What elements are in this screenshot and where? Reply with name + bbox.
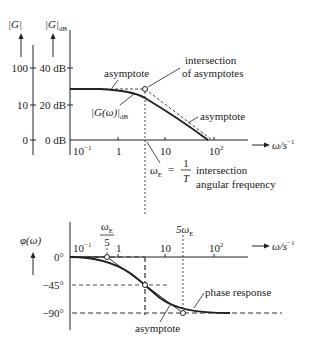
label-freq-1: intersection	[196, 164, 248, 176]
label-intersection-1: intersection	[185, 54, 237, 66]
phase-tick-0: 0°	[54, 251, 64, 263]
phase-tick-90: −90°	[42, 307, 64, 319]
label-omega-e5-num: ωE	[101, 220, 113, 235]
mag-x-tick-100: 102	[209, 144, 224, 157]
phase-axis-arrow-icon	[31, 252, 36, 275]
omega-e-over-5-marker	[105, 255, 110, 260]
db-tick-20: 20 dB	[39, 99, 66, 111]
abs-tick-0: 0	[23, 134, 29, 146]
label-intersection-2: of asymptotes	[182, 67, 243, 79]
phase-x-tick-0.1: 10−1	[73, 241, 92, 254]
phase-x-tick-100: 102	[209, 241, 224, 254]
corner-phase-marker	[143, 283, 148, 288]
abs-axis-arrow-icon	[19, 33, 24, 57]
phase-x-axis-arrow-icon	[252, 244, 270, 249]
db-tick-40: 40 dB	[39, 62, 66, 74]
db-tick-0: 0 dB	[45, 134, 66, 146]
abs-axis-label: |G|	[8, 18, 22, 30]
label-five-omega-e: 5ωE	[176, 223, 194, 238]
label-freq-2: angular frequency	[196, 178, 276, 190]
frac-denominator: T	[183, 172, 190, 184]
label-omega-e: ωE	[150, 164, 162, 179]
phase-x-tick-10: 10	[160, 242, 172, 254]
abs-tick-10: 10	[17, 99, 29, 111]
asymptote-intersection-marker	[143, 87, 148, 92]
label-equals: =	[168, 163, 174, 175]
abs-tick-100: 100	[12, 62, 29, 74]
label-magnitude-curve: |G(ω)|dB	[91, 106, 129, 121]
phase-tick-45: −45°	[42, 279, 64, 291]
label-omega-e5-den: 5	[104, 236, 110, 248]
label-asymptote-low: asymptote	[104, 67, 149, 79]
mag-x-tick-10: 10	[160, 145, 172, 157]
db-axis-label: |G|dB	[45, 18, 68, 33]
db-axis-arrow-icon	[51, 33, 56, 57]
five-omega-e-marker	[181, 311, 186, 316]
mag-x-axis-label: ω/s−1	[272, 138, 295, 151]
label-asymptote-high: asymptote	[200, 110, 245, 122]
mag-x-tick-1: 1	[116, 145, 122, 157]
bode-diagram: |G| 100 10 0 |G|dB 40 dB 20 dB 0 dB 10−1…	[0, 0, 312, 349]
mag-x-axis-arrow-icon	[252, 143, 270, 148]
phase-plot: φ(ω) 0° −45° −90° 10−1 1 10 102 ω/s−1	[20, 220, 295, 334]
frac-numerator: 1	[183, 157, 189, 169]
phase-x-axis-label: ω/s−1	[272, 239, 295, 252]
label-phase-asymptote: asymptote	[135, 322, 180, 334]
magnitude-plot: |G| 100 10 0 |G|dB 40 dB 20 dB 0 dB 10−1…	[8, 18, 295, 215]
phase-x-tick-1: 1	[116, 242, 122, 254]
label-phase-response: phase response	[205, 286, 271, 298]
mag-x-tick-0.1: 10−1	[73, 144, 92, 157]
phase-axis-label: φ(ω)	[20, 234, 42, 247]
